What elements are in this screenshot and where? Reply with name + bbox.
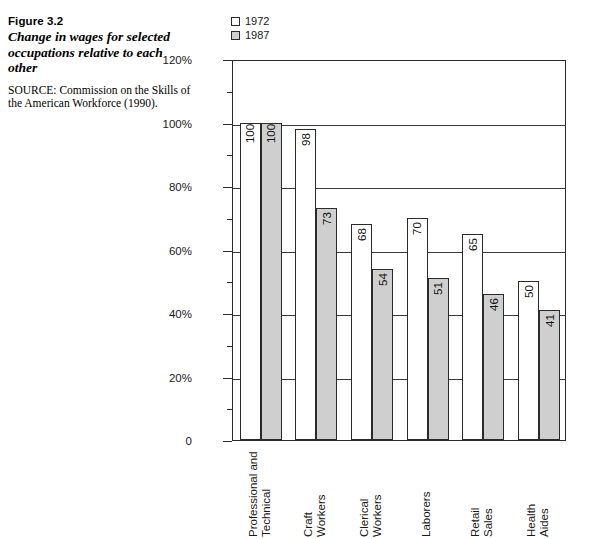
x-category-label: RetailSales	[455, 445, 511, 537]
bar-group: 5041	[511, 61, 567, 440]
y-tick-label-20: 20%	[169, 372, 192, 384]
bar-value-label: 41	[544, 314, 555, 327]
y-axis: 020%40%60%80%100%120%	[0, 60, 232, 441]
legend-swatch-icon-1972	[231, 17, 240, 26]
chart-legend: 1972 1987	[231, 15, 269, 43]
y-tick-major-40	[223, 314, 232, 315]
x-category-label: Professional andTechnical	[232, 445, 288, 537]
y-tick-major-0	[223, 441, 232, 442]
x-category-word: Retail	[469, 445, 482, 537]
x-category-word: Health	[525, 445, 538, 537]
figure-number: Figure 3.2	[8, 14, 194, 28]
bar: 54	[372, 269, 393, 440]
x-category-word: Workers	[371, 445, 384, 537]
x-category-label: HealthAides	[510, 445, 566, 537]
bar: 46	[483, 294, 504, 440]
bar: 70	[407, 218, 428, 440]
x-category-label: Laborers	[399, 445, 455, 537]
x-axis-category-labels: Professional andTechnicalCraftWorkersCle…	[232, 445, 566, 537]
y-tick-major-20	[223, 378, 232, 379]
y-tick-label-80: 80%	[169, 181, 192, 193]
y-tick-label-0: 0	[186, 435, 192, 447]
bar-value-label: 68	[356, 228, 367, 241]
x-category-word: Craft	[302, 445, 315, 537]
bar-group: 100100	[233, 61, 289, 440]
bar-group: 9873	[289, 61, 345, 440]
bar-value-label: 65	[467, 238, 478, 251]
x-category-word: Workers	[315, 445, 328, 537]
x-category-label: CraftWorkers	[288, 445, 344, 537]
figure-page: Figure 3.2 Change in wages for selected …	[0, 0, 599, 539]
bars-layer: 10010098736854705165465041	[233, 61, 565, 440]
bar-group: 7051	[400, 61, 456, 440]
y-tick-label-60: 60%	[169, 245, 192, 257]
bar-value-label: 51	[433, 282, 444, 295]
bar-value-label: 70	[412, 222, 423, 235]
y-tick-major-60	[223, 251, 232, 252]
x-category-word: Professional and	[247, 445, 260, 537]
x-category-word: Aides	[538, 445, 551, 537]
bar-group: 6854	[344, 61, 400, 440]
bar-value-label: 46	[488, 298, 499, 311]
y-tick-major-100	[223, 124, 232, 125]
y-tick-label-100: 100%	[163, 118, 192, 130]
legend-swatch-icon-1987	[231, 31, 240, 40]
x-category-word: Technical	[260, 445, 273, 537]
bar: 100	[261, 123, 282, 441]
y-tick-label-40: 40%	[169, 308, 192, 320]
plot-area: 10010098736854705165465041	[232, 60, 566, 441]
bar-value-label: 73	[321, 212, 332, 225]
bar: 65	[462, 234, 483, 440]
bar: 73	[316, 208, 337, 440]
bar-value-label: 98	[300, 133, 311, 146]
y-tick-label-120: 120%	[163, 54, 192, 66]
bar: 98	[295, 129, 316, 440]
bar: 50	[518, 281, 539, 440]
bar: 51	[428, 278, 449, 440]
bar-value-label: 100	[245, 123, 256, 142]
bar-value-label: 50	[523, 285, 534, 298]
x-category-word: Sales	[482, 445, 495, 537]
bar-group: 6546	[456, 61, 512, 440]
x-category-word: Laborers	[420, 445, 433, 537]
y-tick-major-80	[223, 187, 232, 188]
bar: 41	[539, 310, 560, 440]
legend-item-1972: 1972	[231, 15, 269, 28]
y-tick-major-120	[223, 60, 232, 61]
legend-item-1987: 1987	[231, 29, 269, 42]
x-category-label: ClericalWorkers	[343, 445, 399, 537]
bar: 68	[351, 224, 372, 440]
legend-label-1972: 1972	[245, 16, 269, 27]
bar-value-label: 100	[266, 123, 277, 142]
bar-value-label: 54	[377, 273, 388, 286]
x-category-word: Clerical	[358, 445, 371, 537]
legend-label-1987: 1987	[245, 30, 269, 41]
bar: 100	[240, 123, 261, 441]
